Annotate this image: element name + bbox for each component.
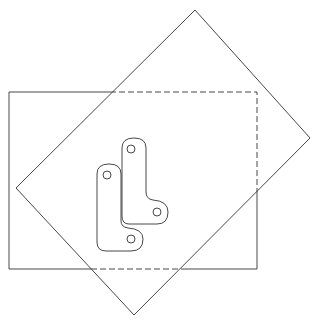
left-bracket-hole-top — [103, 171, 111, 179]
left-bracket-hole-bottom — [127, 235, 135, 243]
rectangle-solid-right — [183, 193, 257, 269]
right-bracket-hole-top — [127, 145, 135, 153]
drawing-canvas — [0, 0, 322, 324]
rectangle-dashed-top-right — [110, 92, 257, 193]
right-bracket-hole-bottom — [153, 208, 161, 216]
